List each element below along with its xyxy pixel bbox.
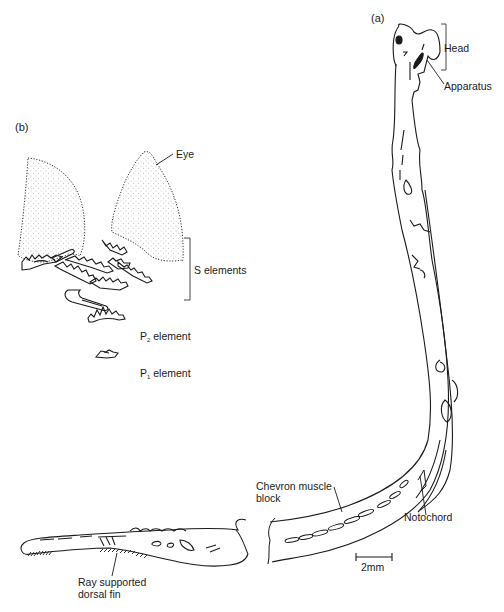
label-eye: Eye <box>176 148 194 160</box>
eye-right <box>112 152 183 261</box>
panel-label-a: (a) <box>371 12 384 24</box>
label-apparatus: Apparatus <box>444 80 492 92</box>
tail-drawing <box>21 519 248 566</box>
eye-left <box>18 158 85 262</box>
label-head: Head <box>444 42 469 54</box>
label-ray-supported-dorsal-fin: Ray supported dorsal fin <box>78 576 146 600</box>
label-p1-element: P1 element <box>140 367 191 383</box>
break-edge <box>268 518 275 564</box>
s-elements-bracket <box>184 238 190 300</box>
label-s-elements: S elements <box>194 264 247 276</box>
fin-rays <box>28 549 147 558</box>
scale-bar-label: 2mm <box>361 561 384 573</box>
p1-element-drawing <box>96 350 118 358</box>
label-notochord: Notochord <box>404 511 452 523</box>
panel-label-b: (b) <box>15 121 28 133</box>
label-chevron-muscle-block: Chevron muscle block <box>256 480 332 504</box>
p2-element-drawing <box>88 307 125 322</box>
scale-bar <box>356 553 392 561</box>
head-drawing <box>393 24 440 100</box>
figure-caption-clipped <box>0 602 504 612</box>
label-p2-element: P2 element <box>140 330 191 346</box>
